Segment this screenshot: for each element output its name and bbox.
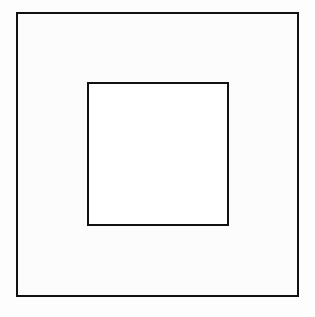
inner-square xyxy=(87,82,229,226)
diagram-canvas xyxy=(0,0,315,317)
